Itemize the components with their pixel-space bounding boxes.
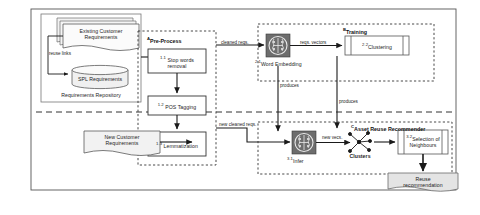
step-pos-tagging-label: 1.2 POS Tagging	[149, 102, 205, 110]
requirements-repository-caption: Requirements Repository	[46, 92, 136, 98]
step-word-embedding-label: 2.1Word Embedding	[255, 59, 325, 67]
training-group-title: BTraining	[343, 27, 367, 35]
step-infer-label: 3.1Infer	[287, 156, 331, 164]
clusters-label: Clusters	[340, 153, 380, 159]
step-lemmatization-label: 1.3 Lemmatization	[149, 141, 205, 149]
infer-brain-icon	[292, 131, 316, 154]
diagram-canvas: Existing Customer Requirements SPL Requi…	[0, 0, 480, 215]
new-customer-requirements-label: New Customer Requirements	[86, 134, 158, 147]
edge-label-cleaned-reqs: cleaned reqs.	[221, 40, 249, 45]
step-clustering-label: 2.2Clustering	[352, 42, 402, 50]
preprocess-group-title: APre-Process	[147, 36, 182, 44]
edge-label-produces-embedding: produces	[280, 83, 299, 88]
arrow-new-cleaned-reqs	[216, 128, 290, 142]
reuse-links-label: reuse links	[49, 51, 71, 56]
step-stop-words-label: 1.1 Stop words removal	[149, 55, 205, 69]
recommender-group-title: CAsset Reuse Recommender	[351, 124, 425, 132]
edge-label-produces-clustering: produces	[339, 99, 358, 104]
spl-requirements-label: SPL Requirements	[70, 76, 130, 82]
existing-requirements-label: Existing Customer Requirements	[65, 28, 137, 41]
edge-label-reqs-vectors: reqs. vectors	[300, 40, 326, 45]
reuse-recommendation-label: Reuse recommendation	[390, 176, 456, 189]
edge-label-new-vecs: new vecs.	[322, 135, 342, 140]
word-embedding-brain-icon	[266, 34, 290, 57]
step-selection-label: 3.2Selection of Neighbours	[400, 134, 446, 148]
edge-label-new-cleaned-reqs: new cleaned reqs.	[219, 122, 256, 127]
clusters-graph-icon	[349, 132, 372, 153]
